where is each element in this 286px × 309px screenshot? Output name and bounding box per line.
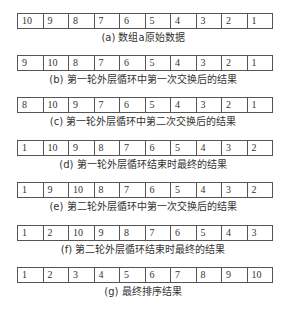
array-cell: 9 [69,141,95,155]
array-cell: 4 [95,268,121,282]
array-cell: 5 [120,268,146,282]
array-cell: 6 [120,14,146,28]
array-cell: 2 [222,98,248,112]
array-cell: 7 [120,183,146,197]
array-row: 12345678910 [17,267,273,283]
array-cell: 3 [197,56,223,70]
array-cell: 2 [222,14,248,28]
array-cell: 4 [171,56,197,70]
array-cell: 9 [95,226,121,240]
array-row: 19108765432 [17,182,273,198]
array-cell: 8 [95,183,121,197]
array-cell: 5 [146,98,172,112]
array-cell: 8 [95,141,121,155]
array-cell: 7 [95,14,121,28]
array-cell: 5 [146,14,172,28]
array-cell: 6 [146,183,172,197]
array-cell: 3 [197,14,223,28]
array-cell: 2 [222,56,248,70]
array-cell: 7 [120,141,146,155]
array-cell: 9 [44,14,70,28]
array-cell: 10 [69,226,95,240]
array-cell: 3 [222,183,248,197]
array-row: 81097654321 [17,97,273,113]
array-cell: 4 [197,141,223,155]
array-cell: 6 [171,226,197,240]
array-cell: 6 [120,56,146,70]
array-cell: 8 [69,14,95,28]
array-cell: 4 [197,183,223,197]
array-cell: 1 [18,141,44,155]
array-row: 91087654321 [17,55,273,71]
array-cell: 8 [197,268,223,282]
step-caption: (b) 第一轮外层循环中第一次交换后的结果 [0,74,286,86]
array-cell: 2 [44,226,70,240]
array-cell: 8 [69,56,95,70]
array-cell: 4 [171,98,197,112]
array-cell: 10 [69,183,95,197]
array-cell: 5 [171,141,197,155]
array-cell: 1 [248,98,273,112]
array-cell: 7 [95,98,121,112]
array-cell: 10 [248,268,273,282]
array-cell: 10 [44,98,70,112]
step-caption: (d) 第一轮外层循环结束时最终的结果 [0,159,286,171]
array-cell: 6 [146,268,172,282]
array-cell: 3 [222,141,248,155]
array-cell: 10 [18,14,44,28]
array-cell: 3 [69,268,95,282]
array-cell: 3 [248,226,273,240]
array-cell: 7 [95,56,121,70]
array-cell: 7 [146,226,172,240]
array-cell: 10 [44,141,70,155]
array-cell: 5 [146,56,172,70]
array-cell: 1 [18,268,44,282]
array-cell: 3 [197,98,223,112]
array-cell: 9 [44,183,70,197]
array-cell: 5 [171,183,197,197]
array-cell: 2 [44,268,70,282]
array-cell: 8 [18,98,44,112]
array-cell: 10 [44,56,70,70]
step-caption: (a) 数组a原始数据 [0,32,286,44]
array-cell: 9 [18,56,44,70]
array-cell: 2 [248,141,273,155]
array-cell: 5 [197,226,223,240]
array-row: 12109876543 [17,225,273,241]
array-row: 11098765432 [17,140,273,156]
array-cell: 7 [171,268,197,282]
array-cell: 2 [248,183,273,197]
step-caption: (c) 第一轮外层循环中第二次交换后的结果 [0,116,286,128]
array-cell: 4 [171,14,197,28]
array-cell: 1 [18,183,44,197]
array-cell: 1 [18,226,44,240]
step-caption: (e) 第二轮外层循环中第一次交换后的结果 [0,201,286,213]
array-cell: 9 [222,268,248,282]
array-cell: 6 [120,98,146,112]
step-caption: (f) 第二轮外层循环结束时最终的结果 [0,244,286,256]
array-row: 10987654321 [17,13,273,29]
array-cell: 6 [146,141,172,155]
array-cell: 9 [69,98,95,112]
array-cell: 1 [248,56,273,70]
array-cell: 4 [222,226,248,240]
array-cell: 8 [120,226,146,240]
array-cell: 1 [248,14,273,28]
step-caption: (g) 最终排序结果 [0,286,286,298]
